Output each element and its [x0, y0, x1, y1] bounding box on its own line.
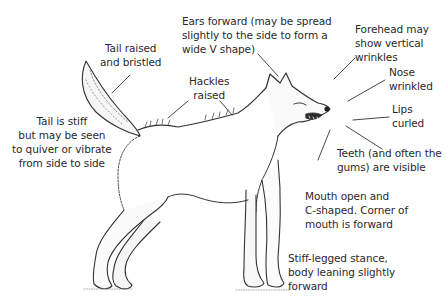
rump-drawing [118, 136, 140, 210]
leader-hackles-left [168, 101, 188, 118]
leader-tail-raised [112, 75, 130, 93]
front-leg-near [262, 160, 284, 287]
leader-lips [353, 117, 389, 120]
label-teeth-visible: Teeth (and often the gums) are visible [337, 146, 442, 174]
leader-hackles-right [220, 101, 232, 115]
dog-aggression-diagram: Ears forward (may be spread slightly to … [0, 0, 445, 299]
label-nose-wrinkled: Nose wrinkled [389, 65, 433, 93]
leader-mouth [318, 130, 330, 160]
leader-forehead [334, 58, 355, 79]
label-ears-forward: Ears forward (may be spread slightly to … [182, 14, 332, 56]
head-drawing [266, 73, 330, 136]
leader-nose [348, 80, 385, 101]
front-leg-far [244, 190, 264, 287]
label-forehead-wrinkles: Forehead may show vertical wrinkles [355, 22, 429, 64]
nose-drawing [324, 106, 329, 111]
label-hackles-raised: Hackles raised [189, 74, 229, 102]
label-mouth-open: Mouth open and C-shaped. Corner of mouth… [305, 189, 408, 231]
label-lips-curled: Lips curled [392, 102, 424, 130]
label-tail-raised: Tail raised and bristled [100, 41, 161, 69]
label-stiff-stance: Stiff-legged stance, body leaning slight… [288, 251, 395, 293]
leader-ears [258, 54, 278, 76]
belly-drawing [168, 194, 248, 203]
label-tail-stiff: Tail is stiff but may be seen to quiver … [12, 114, 112, 170]
leader-lines [112, 54, 389, 160]
